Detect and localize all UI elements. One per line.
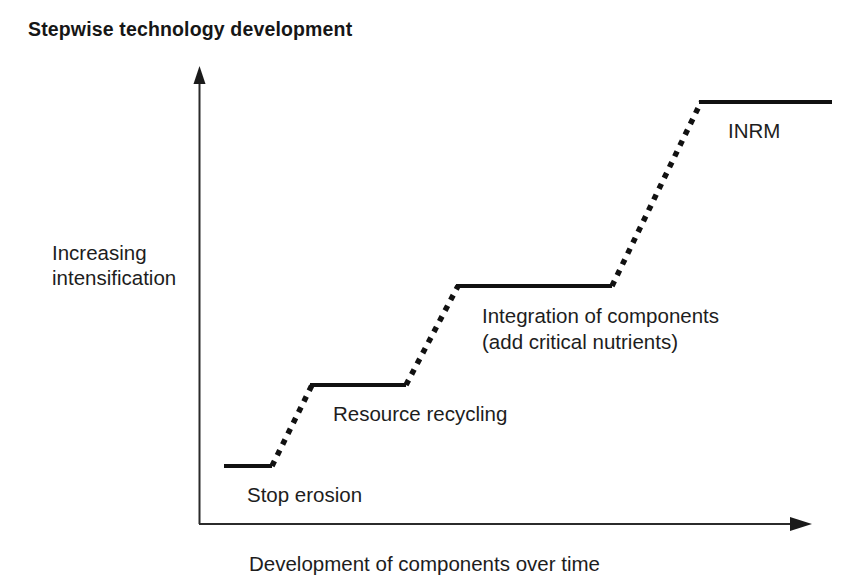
annotation-integration-of-components: Integration of components (add critical … bbox=[482, 303, 719, 354]
annotation-inrm: INRM bbox=[728, 118, 780, 144]
figure-container: Stepwise technology development Increasi… bbox=[0, 0, 866, 583]
annotation-resource-recycling: Resource recycling bbox=[333, 401, 507, 427]
x-axis bbox=[199, 517, 812, 531]
stepwise-plot bbox=[0, 0, 866, 583]
riser-segment-2 bbox=[406, 286, 458, 385]
y-axis bbox=[194, 66, 206, 524]
riser-segment-3 bbox=[612, 102, 701, 286]
riser-segment-1 bbox=[272, 385, 312, 466]
annotation-stop-erosion: Stop erosion bbox=[247, 482, 362, 508]
